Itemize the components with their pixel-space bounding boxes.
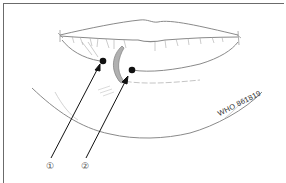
shading-strokes (98, 86, 114, 96)
mouth-line (60, 36, 238, 42)
lip-illustration-figure: ① ② WHO 861819 (0, 0, 286, 183)
lower-lip-contour (62, 40, 238, 71)
callout-label-2: ② (81, 162, 89, 171)
callout-arrow-1 (51, 64, 100, 158)
upper-lip-contour (60, 20, 238, 35)
callout-label-1: ① (46, 162, 54, 171)
lip-texture-strokes (72, 36, 223, 57)
marker-dot-2 (129, 67, 136, 74)
lips-drawing (0, 0, 286, 183)
lesion-shape (113, 46, 124, 83)
lower-lip-inner-line (118, 80, 200, 83)
marker-dot-1 (100, 58, 107, 65)
callout-arrow-2 (86, 76, 128, 158)
